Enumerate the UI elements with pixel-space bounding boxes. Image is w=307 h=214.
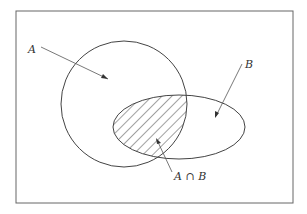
label-a: A bbox=[27, 43, 36, 56]
arrow-a bbox=[41, 47, 108, 79]
label-b: B bbox=[244, 58, 253, 71]
label-intersection: A ∩ B bbox=[173, 170, 206, 183]
venn-diagram: A B A ∩ B bbox=[0, 0, 307, 214]
arrow-b bbox=[216, 64, 242, 116]
arrowhead-a-icon bbox=[101, 74, 108, 79]
